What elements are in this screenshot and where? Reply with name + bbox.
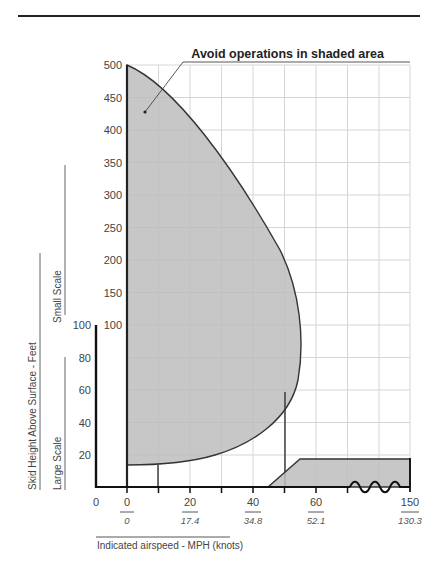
svg-text:350: 350 [104,157,122,169]
svg-text:20: 20 [79,449,91,461]
svg-text:60: 60 [79,384,91,396]
svg-text:300: 300 [104,189,122,201]
x-tick-labels: 0 0 0 20 17.4 40 34.8 60 52.1 150 130.3 [93,496,423,526]
svg-text:500: 500 [104,59,122,71]
x-axis-label: Indicated airspeed - MPH (knots) [97,540,243,551]
svg-text:40: 40 [79,417,91,429]
svg-text:150: 150 [104,287,122,299]
y-axis-label: Skid Height Above Surface - Feet [27,342,38,490]
avoid-region-upper [127,65,301,465]
svg-text:80: 80 [79,352,91,364]
svg-text:200: 200 [104,254,122,266]
small-scale-label: Small Scale [52,270,63,323]
chart-title: Avoid operations in shaded area [191,47,385,61]
svg-text:100: 100 [73,319,91,331]
svg-text:130.3: 130.3 [398,515,422,526]
height-velocity-chart: Avoid operations in shaded area 500 450 … [0,0,448,573]
title-leader-line [145,62,410,112]
svg-text:400: 400 [104,124,122,136]
y-ticks-large: 100 80 60 40 20 [73,319,91,461]
svg-text:150: 150 [401,496,419,508]
large-scale-label: Large Scale [52,436,63,490]
svg-text:17.4: 17.4 [181,515,200,526]
svg-text:34.8: 34.8 [244,515,263,526]
y-ticks-small: 500 450 400 350 300 250 200 150 100 [104,59,122,331]
svg-text:100: 100 [104,319,122,331]
svg-text:40: 40 [247,496,259,508]
svg-text:250: 250 [104,222,122,234]
svg-text:0: 0 [124,515,130,526]
svg-text:0: 0 [93,496,99,508]
svg-text:52.1: 52.1 [307,515,326,526]
svg-text:60: 60 [310,496,322,508]
svg-text:450: 450 [104,92,122,104]
avoid-region-lower-right [268,459,410,487]
leader-point [143,110,146,113]
svg-text:0: 0 [124,496,130,508]
svg-text:20: 20 [184,496,196,508]
